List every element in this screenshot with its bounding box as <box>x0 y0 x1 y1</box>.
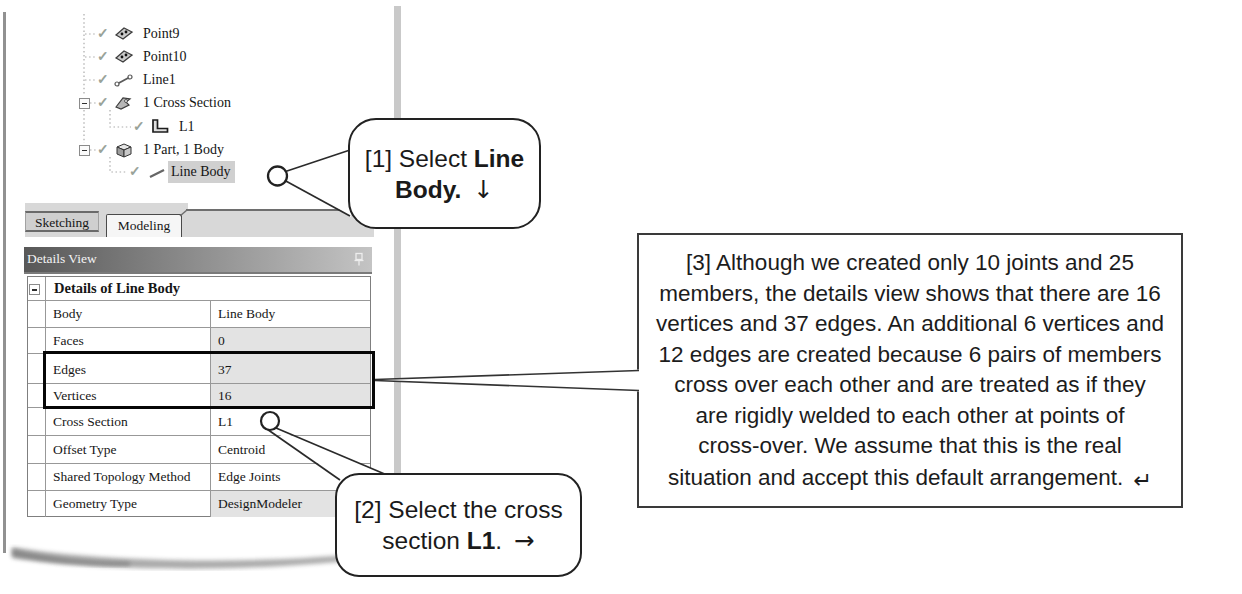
row-label-shared-topology: Shared Topology Method <box>46 464 211 490</box>
row-label-faces: Faces <box>46 328 211 353</box>
table-row-geometry-type: Geometry Type DesignModeler <box>28 491 370 517</box>
pin-icon[interactable] <box>353 252 365 267</box>
tabstrip-background-right <box>188 210 374 237</box>
row-label-offset-type: Offset Type <box>46 436 211 463</box>
details-group-expander[interactable] <box>29 284 40 295</box>
check-icon: ✓ <box>97 139 109 161</box>
callout-3-note-box: [3] Although we created only 10 joints a… <box>637 233 1183 508</box>
row-value-body[interactable]: Line Body <box>211 301 370 327</box>
edges-vertices-highlight-box <box>43 351 375 409</box>
screenshot-left-edge <box>3 12 6 553</box>
cross-section-icon <box>113 94 135 118</box>
tree-expander-cross-section[interactable] <box>79 98 90 109</box>
check-icon: ✓ <box>133 116 145 138</box>
row-label-geometry-type: Geometry Type <box>46 491 211 517</box>
line-body-icon <box>146 165 168 187</box>
point-icon <box>113 26 135 49</box>
point-icon <box>113 49 135 72</box>
tutorial-page: ✓ Point9 ✓ Point10 ✓ Line1 ✓ 1 Cr <box>0 0 1242 594</box>
callout-1-text: [1] Select Line Body.↓ <box>350 143 539 205</box>
return-arrow-icon: ↵ <box>1133 467 1152 493</box>
row-value-offset-type[interactable]: Centroid <box>211 436 370 463</box>
table-row-shared-topology: Shared Topology Method Edge Joints <box>28 464 370 491</box>
callout-2-select-cross-section: [2] Select the cross section L1.→ <box>335 473 582 577</box>
details-view-titlebar: Details View <box>24 247 372 274</box>
details-group-header: Details of Line Body <box>46 277 370 300</box>
tab-modeling-label[interactable]: Modeling <box>118 218 171 233</box>
row-label-body: Body <box>46 301 211 327</box>
callout-3-connector <box>375 370 640 392</box>
table-row-body: Body Line Body <box>28 301 370 328</box>
screenshot-right-edge <box>394 6 401 548</box>
tab-modeling[interactable]: Modeling <box>106 214 182 237</box>
row-label-cross-section: Cross Section <box>46 408 211 435</box>
tabstrip-border-line <box>186 209 374 211</box>
down-arrow-icon: ↓ <box>473 175 494 204</box>
row-value-cross-section[interactable]: L1 <box>211 408 370 435</box>
right-arrow-icon: → <box>514 526 535 555</box>
callout-1-tail <box>283 149 351 217</box>
line-icon <box>113 73 135 95</box>
callout-1-select-line-body: [1] Select Line Body.↓ <box>348 118 541 229</box>
details-group-header-row: Details of Line Body <box>28 277 370 301</box>
table-row-cross-section: Cross Section L1 <box>28 408 370 436</box>
table-row-offset-type: Offset Type Centroid <box>28 436 370 464</box>
check-icon: ✓ <box>97 69 109 91</box>
page-scan-shadow <box>12 547 388 569</box>
row-value-faces[interactable]: 0 <box>211 328 370 353</box>
details-view-title: Details View <box>27 251 97 267</box>
callout-3-text: [3] Although we created only 10 joints a… <box>656 250 1164 490</box>
tree-expander-part[interactable] <box>79 145 90 156</box>
check-icon: ✓ <box>97 92 109 114</box>
callout-2-text: [2] Select the cross section L1.→ <box>337 494 580 556</box>
check-icon: ✓ <box>97 23 109 45</box>
check-icon: ✓ <box>97 46 109 68</box>
check-icon: ✓ <box>129 161 141 183</box>
callout-1-marker-circle <box>268 167 287 186</box>
tab-sketching[interactable]: Sketching <box>25 211 99 232</box>
tab-sketching-label[interactable]: Sketching <box>35 215 89 230</box>
